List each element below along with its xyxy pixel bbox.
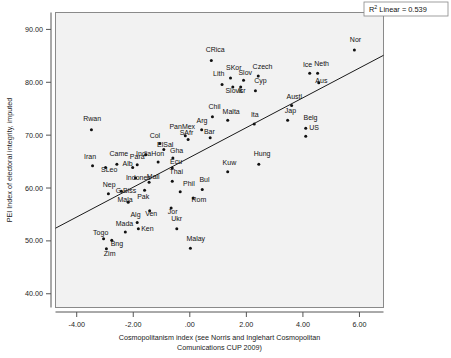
data-point-label: CRica <box>206 46 225 53</box>
chart-page: 40.0050.0060.0070.0080.0090.00-4.00-2.00… <box>0 0 451 358</box>
x-axis-title-line2: Comunications CUP 2009) <box>177 343 262 352</box>
scatter-plot: 40.0050.0060.0070.0080.0090.00-4.00-2.00… <box>0 0 451 358</box>
data-point: Rom <box>192 196 207 203</box>
data-point-marker <box>187 138 190 141</box>
data-point-label: Malay <box>186 235 205 243</box>
data-point-label: Ice <box>303 61 312 68</box>
data-point-marker <box>171 156 174 159</box>
data-point-label: Came <box>110 150 129 157</box>
data-point-marker <box>171 180 174 183</box>
data-point-label: Hon <box>151 150 164 157</box>
data-point-marker <box>107 192 110 195</box>
data-point-marker <box>286 119 289 122</box>
data-point-marker <box>210 59 213 62</box>
data-point-label: SLeo <box>101 166 117 173</box>
data-point: SLeo <box>101 166 117 173</box>
data-point-label: Austl <box>287 93 303 100</box>
data-point-marker <box>189 247 192 250</box>
data-point-label: Ecu <box>170 158 182 165</box>
x-axis-tick-label: -2.00 <box>125 320 141 329</box>
r-squared-annotation: R2 Linear = 0.539 <box>364 2 448 16</box>
data-point-marker <box>91 164 94 167</box>
data-point-marker <box>200 128 203 131</box>
y-axis-tick-label: 90.00 <box>25 25 43 34</box>
y-axis-tick-label: 70.00 <box>25 131 43 140</box>
r-squared-label: R2 Linear = 0.539 <box>369 4 427 14</box>
x-axis-tick-label: .00 <box>185 320 195 329</box>
data-point-label: SAfr <box>180 129 194 136</box>
data-point-marker <box>253 123 256 126</box>
data-point-marker <box>115 163 118 166</box>
data-point-label: Aus <box>315 77 328 84</box>
data-point-label: Slov <box>238 69 252 76</box>
data-point-marker <box>242 79 245 82</box>
data-point-label: Ven <box>145 210 157 217</box>
data-point-label: Lith <box>213 70 224 77</box>
data-point: India <box>136 150 151 157</box>
data-point-marker <box>175 227 178 230</box>
data-point-label: Hung <box>254 150 271 158</box>
data-point-marker <box>148 181 151 184</box>
data-point-marker <box>90 128 93 131</box>
data-point-marker <box>171 166 174 169</box>
data-point-label: G.Biss <box>116 187 137 194</box>
y-axis-tick-label: 40.00 <box>25 289 43 298</box>
data-point-label: Mala <box>117 196 132 203</box>
data-point-marker <box>124 230 127 233</box>
data-point-marker <box>157 161 160 164</box>
data-point: G.Biss <box>116 187 137 194</box>
data-point-label: Czech <box>253 63 273 70</box>
data-point-label: Zim <box>104 250 116 257</box>
data-point-label: Alg <box>130 211 140 219</box>
x-axis-tick-label: -4.00 <box>69 320 85 329</box>
data-point-marker <box>136 221 139 224</box>
data-point-marker <box>304 135 307 138</box>
data-point-marker <box>184 134 187 137</box>
data-point-marker <box>308 72 311 75</box>
data-point-label: Jap <box>285 107 296 115</box>
x-axis-tick-label: 6.00 <box>352 320 366 329</box>
data-point-label: Nor <box>350 36 362 43</box>
data-point-marker <box>201 188 204 191</box>
data-point-label: Neth <box>314 60 329 67</box>
data-point-label: Togo <box>93 229 108 237</box>
data-point: Bng <box>110 239 123 248</box>
data-point: Isr <box>238 86 246 94</box>
data-point-label: Thai <box>169 168 183 175</box>
data-point-marker <box>226 119 229 122</box>
data-point-marker <box>221 83 224 86</box>
data-point-marker <box>102 237 105 240</box>
data-point-label: Bar <box>204 128 216 135</box>
y-axis-tick-label: 80.00 <box>25 78 43 87</box>
y-axis-tick-label: 60.00 <box>25 184 43 193</box>
x-axis-tick-label: 2.00 <box>239 320 253 329</box>
data-point-marker <box>209 136 212 139</box>
data-point-label: Bng <box>111 240 124 248</box>
data-point-marker <box>137 227 140 230</box>
data-point-label: Ita <box>251 111 259 118</box>
data-point-marker <box>353 49 356 52</box>
data-point-label: Iran <box>84 153 96 160</box>
data-point-marker <box>290 104 293 107</box>
data-point-label: Kuw <box>223 159 238 166</box>
y-axis-tick-label: 50.00 <box>25 236 43 245</box>
data-point-marker <box>226 170 229 173</box>
data-point-marker <box>254 89 257 92</box>
data-point-label: Alb <box>123 160 133 167</box>
y-axis-title: PEI Index of electoral integrity, impute… <box>5 98 14 223</box>
data-point-marker <box>211 115 214 118</box>
data-point-marker <box>162 148 165 151</box>
data-point-label: Nep <box>103 181 116 189</box>
data-point-label: Phil <box>183 180 195 187</box>
data-point-label: Rom <box>192 196 207 203</box>
data-point-marker <box>304 127 307 130</box>
data-point-marker <box>179 190 182 193</box>
data-point: Aus <box>315 77 328 85</box>
data-point-label: Ukr <box>171 215 183 222</box>
data-point-label: PanMex <box>169 123 195 130</box>
x-axis-title-line1: Cosmopolitanism index (see Norris and In… <box>119 333 320 342</box>
data-point-marker <box>143 189 146 192</box>
data-point-label: US <box>309 124 319 131</box>
data-point-label: Rwan <box>83 115 101 122</box>
data-point-marker <box>257 163 260 166</box>
